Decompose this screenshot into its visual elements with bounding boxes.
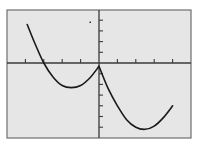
graph-plot bbox=[0, 0, 204, 147]
cursor-dot bbox=[90, 22, 92, 24]
